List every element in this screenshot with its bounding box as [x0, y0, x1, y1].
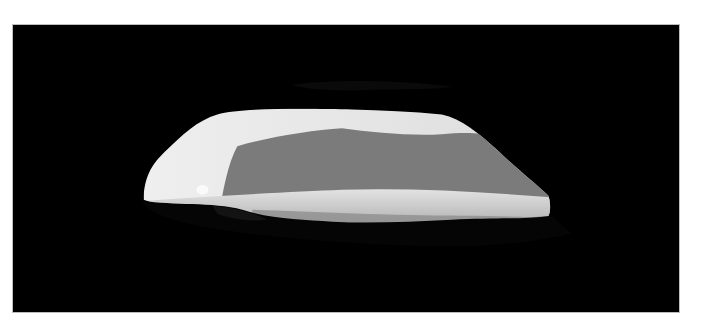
photo-cave-opening	[12, 24, 680, 313]
cave-scene-graphic	[13, 25, 679, 312]
